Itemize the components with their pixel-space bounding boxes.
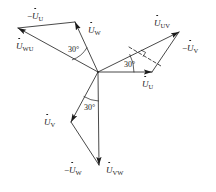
label-neg-u-v-base: U — [187, 44, 194, 53]
phasor-diagram-figure: −UU UW UWU UUV −UV UU UV −UW UVW 30° 30°… — [0, 0, 216, 192]
label-u-wu-base: U — [16, 42, 23, 51]
label-u-w: UW — [88, 26, 101, 36]
label-u-v: UV — [44, 118, 55, 128]
phasor-dot — [156, 15, 158, 17]
angle-arc-lower — [84, 97, 98, 101]
label-neg-u-u-base: U — [32, 12, 39, 21]
angle-label-lower: 30° — [84, 104, 95, 112]
phasor-dot — [90, 22, 92, 24]
angle-label-upper-left: 30° — [68, 46, 79, 54]
phasor-dot — [72, 162, 74, 164]
phasor-u-vw — [98, 72, 99, 165]
phasor-neg-u-u — [18, 22, 75, 28]
label-u-uv: UUV — [154, 19, 170, 29]
label-u-u-base: U — [142, 80, 149, 89]
label-u-u: UU — [142, 80, 153, 90]
label-neg-u-w-base: U — [69, 166, 76, 175]
angle-label-upper-right: 30° — [124, 61, 135, 69]
label-u-vw: UVW — [106, 166, 123, 176]
label-neg-u-w: −UW — [64, 166, 82, 176]
phasor-dot — [144, 76, 146, 78]
phasor-dot — [190, 40, 192, 42]
label-u-wu: UWU — [16, 42, 33, 52]
label-u-v-base: U — [44, 118, 51, 127]
label-neg-u-u: −UU — [27, 12, 43, 22]
label-u-w-base: U — [88, 26, 95, 35]
phasor-neg-u-w — [71, 122, 99, 165]
right-angle-mark — [141, 50, 145, 56]
phasor-dot — [46, 114, 48, 116]
label-neg-u-v: −UV — [182, 44, 198, 54]
phasor-u-uv — [98, 32, 179, 72]
phasor-diagram-canvas — [0, 0, 216, 192]
label-u-uv-base: U — [154, 19, 161, 28]
phasor-dot — [18, 38, 20, 40]
label-u-vw-base: U — [106, 166, 113, 175]
phasor-neg-u-v — [152, 32, 179, 72]
phasor-dot — [35, 8, 37, 10]
phasor-dot — [108, 162, 110, 164]
